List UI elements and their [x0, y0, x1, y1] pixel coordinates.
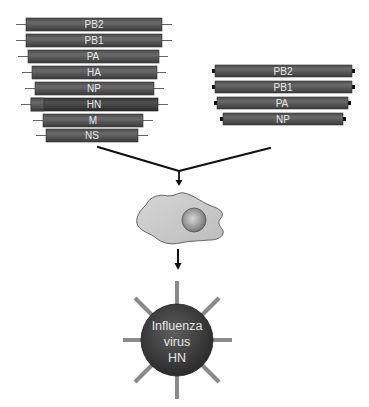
segment-label: PB2 [85, 19, 104, 30]
influenza-virus: Influenza virus HN [123, 281, 232, 399]
segment-label: PB1 [85, 35, 104, 46]
right-segment-pa: PA [214, 97, 351, 109]
nucleus [182, 208, 206, 232]
virus-label-line3: HN [168, 351, 186, 365]
left-segment-hn: HN [21, 98, 168, 111]
left-segment-pb1: PB1 [16, 34, 172, 47]
segment-label: HA [87, 67, 101, 78]
left-segment-m: M [33, 114, 153, 127]
left-segment-np: NP [25, 82, 164, 95]
virus-label-line1: Influenza [152, 319, 203, 333]
down-arrow [175, 249, 182, 270]
arrowhead-icon [175, 263, 182, 270]
reverse-genetics-diagram: PB2 PB1 PA HA NP [0, 0, 369, 407]
segment-label: PB1 [274, 82, 293, 93]
right-segment-set: PB2 PB1 PA NP [212, 65, 355, 125]
left-segment-set: PB2 PB1 PA HA NP [16, 18, 172, 142]
left-segment-ha: HA [22, 66, 166, 79]
left-segment-pa: PA [18, 50, 168, 63]
left-segment-pb2: PB2 [16, 18, 172, 31]
segment-label: M [89, 115, 97, 126]
segment-label: NS [85, 130, 99, 141]
segment-label: PA [276, 98, 289, 109]
segment-label: PB2 [274, 66, 293, 77]
segment-label: PA [87, 51, 100, 62]
converging-arrow [98, 147, 270, 186]
arrowhead-icon [176, 180, 183, 186]
segment-label: NP [87, 83, 101, 94]
right-segment-np: NP [220, 113, 346, 125]
virus-label-line2: virus [164, 335, 190, 349]
segment-label: HN [87, 99, 101, 110]
right-segment-pb1: PB1 [212, 81, 355, 93]
right-segment-pb2: PB2 [212, 65, 355, 77]
host-cell [137, 193, 224, 244]
left-segment-ns: NS [36, 129, 148, 142]
segment-label: NP [276, 114, 290, 125]
hn-flank-region [31, 98, 44, 111]
